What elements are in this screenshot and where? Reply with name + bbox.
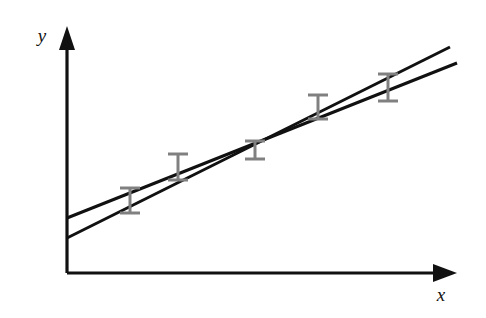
figure-container: y x <box>0 0 486 318</box>
x-axis-label: x <box>436 284 446 305</box>
y-axis-label: y <box>36 25 47 46</box>
plot-svg: y x <box>0 0 486 318</box>
